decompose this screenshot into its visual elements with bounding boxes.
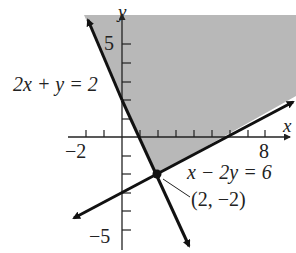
point-pointer (163, 179, 190, 197)
equation-label-line2: x − 2y = 6 (187, 162, 272, 182)
tick-label-y-5: 5 (104, 33, 114, 53)
y-axis-label: y (118, 2, 126, 21)
tick-label-x-neg2: −2 (65, 141, 86, 161)
line-x-minus-2y-eq-6-lower (74, 174, 157, 218)
tick-label-y-neg5: −5 (89, 226, 110, 246)
intersection-point (153, 170, 162, 179)
x-axis-label: x (283, 116, 291, 135)
equation-label-line1: 2x + y = 2 (13, 74, 98, 94)
tick-label-x-8: 8 (259, 141, 269, 161)
graph-canvas (0, 0, 296, 253)
point-label: (2, −2) (191, 189, 246, 209)
